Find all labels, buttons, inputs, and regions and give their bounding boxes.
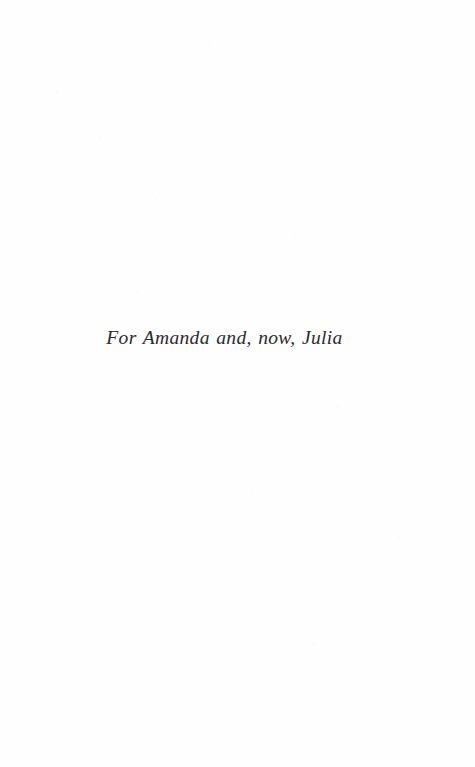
scan-speckle-texture (0, 0, 475, 767)
scanned-page: For Amanda and, now, Julia (0, 0, 475, 767)
dedication-block: For Amanda and, now, Julia (0, 326, 475, 350)
dedication-text: For Amanda and, now, Julia (106, 326, 342, 350)
